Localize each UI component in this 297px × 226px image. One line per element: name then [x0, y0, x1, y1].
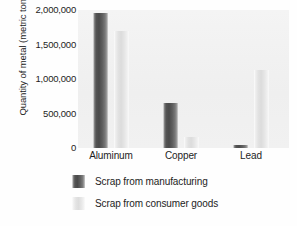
bar-aluminum-consumer: [114, 31, 129, 148]
bar-chart-figure: Quantity of metal (metric tons) 0500,000…: [0, 0, 297, 226]
y-axis-tick-label: 2,000,000: [18, 5, 76, 15]
bar-aluminum-manufacturing: [93, 13, 108, 148]
legend-item: Scrap from consumer goods: [72, 192, 297, 214]
plot-area: [78, 10, 289, 148]
bar-group: [163, 10, 199, 148]
bar-series-container: [78, 10, 289, 148]
y-axis-tick-label: 500,000: [18, 109, 76, 119]
legend-item: Scrap from manufacturing: [72, 170, 297, 192]
bar-copper-consumer: [184, 137, 199, 148]
bar-copper-manufacturing: [163, 103, 178, 148]
y-axis-tick-label: 1,500,000: [18, 40, 76, 50]
bar-group: [93, 10, 129, 148]
legend-swatch-dark: [72, 175, 85, 188]
legend-swatch-light: [72, 197, 85, 210]
legend-label: Scrap from consumer goods: [95, 198, 218, 209]
bar-lead-manufacturing: [233, 145, 248, 148]
x-axis-tick-labels: AluminumCopperLead: [78, 150, 289, 164]
bar-lead-consumer: [254, 70, 269, 148]
chart-legend: Scrap from manufacturingScrap from consu…: [72, 170, 297, 214]
y-axis-tick-labels: 0500,0001,000,0001,500,0002,000,000: [18, 0, 76, 160]
x-axis-tick-label: Lead: [206, 150, 296, 161]
y-axis-tick-label: 1,000,000: [18, 74, 76, 84]
bar-group: [233, 10, 269, 148]
legend-label: Scrap from manufacturing: [95, 176, 208, 187]
